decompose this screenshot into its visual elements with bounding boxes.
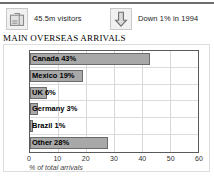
bar-label-brazil: Brazil 1% (32, 121, 65, 130)
x-tick-0: 0 (27, 155, 31, 162)
table-row: UK 6% (30, 85, 198, 102)
bar-label-other: Other 28% (32, 138, 69, 147)
x-tick-10: 10 (53, 155, 61, 162)
table-row: Germany 3% (30, 101, 198, 118)
suitcase-icon (6, 8, 28, 30)
x-tick-60: 60 (195, 155, 203, 162)
chart-heading: MAIN OVERSEAS ARRIVALS (3, 33, 126, 43)
top-divider (0, 2, 214, 4)
bar-rows: Canada 43% Mexico 19% UK 6% Germany 3% B… (30, 51, 198, 152)
table-row: Canada 43% (30, 51, 198, 68)
table-row: Other 28% (30, 135, 198, 152)
summary-stats-row: 45.5m visitors Down 1% in 1994 (0, 8, 214, 32)
x-tick-50: 50 (167, 155, 175, 162)
x-tick-20: 20 (82, 155, 90, 162)
x-tick-30: 30 (110, 155, 118, 162)
table-row: Brazil 1% (30, 118, 198, 135)
down-arrow-icon (110, 8, 132, 30)
chart-panel: Canada 43% Mexico 19% UK 6% Germany 3% B… (3, 44, 210, 172)
x-axis-caption: % of total arrivals (29, 164, 83, 171)
bar-label-germany: Germany 3% (32, 104, 77, 113)
bar-label-uk: UK 6% (32, 88, 56, 97)
stat-change-label: Down 1% in 1994 (138, 14, 198, 23)
stat-visitors-label: 45.5m visitors (34, 14, 82, 23)
x-tick-40: 40 (138, 155, 146, 162)
tourism-infographic: 45.5m visitors Down 1% in 1994 MAIN OVER… (0, 0, 214, 177)
table-row: Mexico 19% (30, 68, 198, 85)
bar-label-canada: Canada 43% (32, 54, 76, 63)
bar-label-mexico: Mexico 19% (32, 71, 75, 80)
plot-area: Canada 43% Mexico 19% UK 6% Germany 3% B… (29, 50, 199, 153)
